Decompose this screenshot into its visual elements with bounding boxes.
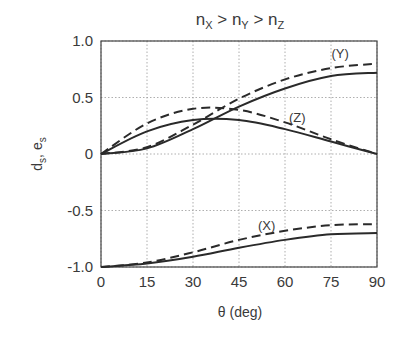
x-tick-labels: 0153045607590 xyxy=(97,273,386,290)
chart-title: nX​ > nY​ > nZ​ xyxy=(196,10,285,31)
x-tick-label: 30 xyxy=(185,273,202,290)
y-tick-label: 1.0 xyxy=(72,32,93,49)
x-tick-label: 60 xyxy=(277,273,294,290)
curve-label: (X) xyxy=(258,218,275,233)
x-tick-label: 75 xyxy=(323,273,340,290)
x-axis-label: θ (deg) xyxy=(218,304,262,320)
y-tick-label: -1.0 xyxy=(67,258,93,275)
y-tick-labels: 1.00.50-0.5-1.0 xyxy=(67,32,93,275)
x-tick-label: 45 xyxy=(231,273,248,290)
x-tick-label: 90 xyxy=(369,273,386,290)
y-tick-label: 0 xyxy=(85,145,93,162)
curve-labels: (Y)(Z)(X) xyxy=(258,46,349,233)
curve-label: (Y) xyxy=(332,46,349,61)
x-tick-label: 15 xyxy=(139,273,156,290)
y-axis-label: ds​, es​ xyxy=(29,137,48,170)
y-tick-label: -0.5 xyxy=(67,202,93,219)
curve-label: (Z) xyxy=(289,110,306,125)
chart: 1.00.50-0.5-1.0 0153045607590 (Y)(Z)(X) … xyxy=(0,0,407,341)
y-tick-label: 0.5 xyxy=(72,89,93,106)
x-tick-label: 0 xyxy=(97,273,105,290)
